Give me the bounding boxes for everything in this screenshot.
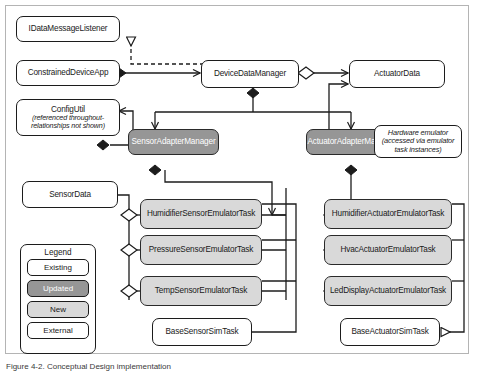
node-label: LedDisplayActuatorEmulatorTask <box>330 286 446 295</box>
legend: Legend Existing Updated New External <box>20 244 96 354</box>
node-label: BaseSensorSimTask <box>166 327 239 336</box>
node-label: ActuatorData <box>374 69 420 78</box>
node-label: DeviceDataManager <box>214 69 286 78</box>
node-tempsensoremulatortask[interactable]: TempSensorEmulatorTask <box>140 276 262 306</box>
node-pressuresensoremulatortask[interactable]: PressureSensorEmulatorTask <box>140 235 262 265</box>
node-label: HumidifierSensorEmulatorTask <box>147 209 255 218</box>
node-idatamessagelistener[interactable]: IDataMessageListener <box>16 16 120 42</box>
node-label: IDataMessageListener <box>29 24 108 33</box>
uml-class-diagram: IDataMessageListener ConstrainedDeviceAp… <box>0 0 477 373</box>
node-baseactuatorsimtask[interactable]: BaseActuatorSimTask <box>340 318 440 346</box>
node-devicedatamanager[interactable]: DeviceDataManager <box>201 60 299 88</box>
node-actuatordata[interactable]: ActuatorData <box>349 60 445 88</box>
legend-item-label: New <box>50 305 66 314</box>
node-label: SensorAdapterManager <box>132 137 216 146</box>
note-label: Hardware emulator (accessed via emulator… <box>377 129 459 155</box>
node-humidifiersensoremulatortask[interactable]: HumidifierSensorEmulatorTask <box>140 199 262 229</box>
legend-item-new: New <box>27 301 89 318</box>
legend-item-external: External <box>27 322 89 339</box>
legend-item-existing: Existing <box>27 259 89 276</box>
node-label: PressureSensorEmulatorTask <box>149 245 253 254</box>
node-label: HvacActuatorEmulatorTask <box>340 245 435 254</box>
node-constraineddeviceapp[interactable]: ConstrainedDeviceApp <box>16 60 120 86</box>
legend-item-updated: Updated <box>27 280 89 297</box>
figure-caption: Figure 4-2. Conceptual Design implementa… <box>6 362 466 371</box>
node-sublabel: (referenced throughout-relationships not… <box>19 114 117 130</box>
note-hardware-emulator: Hardware emulator (accessed via emulator… <box>374 125 462 158</box>
node-label: BaseActuatorSimTask <box>351 327 428 336</box>
node-label: TempSensorEmulatorTask <box>155 286 247 295</box>
node-sensoradaptermanager[interactable]: SensorAdapterManager <box>128 129 219 155</box>
node-label: HumidifierActuatorEmulatorTask <box>332 209 444 218</box>
node-sensordata[interactable]: SensorData <box>22 181 118 208</box>
legend-title: Legend <box>44 248 71 257</box>
node-humidifieractuatoremulatortask[interactable]: HumidifierActuatorEmulatorTask <box>324 199 452 229</box>
node-leddisplayactuatoremulatortask[interactable]: LedDisplayActuatorEmulatorTask <box>324 276 452 306</box>
legend-item-label: External <box>43 326 72 335</box>
legend-item-label: Updated <box>43 284 73 293</box>
node-label: ConstrainedDeviceApp <box>28 68 109 77</box>
node-label: SensorData <box>49 190 91 199</box>
node-basesensorsimtask[interactable]: BaseSensorSimTask <box>152 318 252 346</box>
node-configutil[interactable]: ConfigUtil (referenced throughout-relati… <box>16 99 120 136</box>
node-hvacactuatoremulatortask[interactable]: HvacActuatorEmulatorTask <box>324 235 452 265</box>
legend-item-label: Existing <box>44 263 72 272</box>
